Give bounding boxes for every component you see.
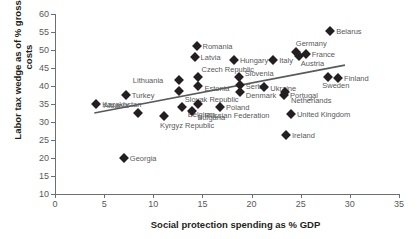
y-tick-label: 50: [27, 46, 49, 55]
data-point-label: United Kingdom: [297, 111, 350, 119]
x-tick-mark: [301, 194, 302, 198]
x-tick-label: 30: [339, 200, 361, 209]
x-tick-label: 0: [44, 200, 66, 209]
y-tick-label: 45: [27, 64, 49, 73]
data-point-label: Austria: [301, 60, 324, 68]
x-tick-label: 15: [191, 200, 213, 209]
x-tick-mark: [399, 194, 400, 198]
data-point-label: Russian Federation: [204, 112, 269, 120]
x-tick-label: 25: [290, 200, 312, 209]
data-point-label: Turkey: [132, 92, 155, 100]
x-tick-label: 20: [241, 200, 263, 209]
x-tick-mark: [350, 194, 351, 198]
x-axis-line: [55, 194, 399, 195]
x-tick-mark: [55, 194, 56, 198]
y-tick-mark: [51, 104, 55, 105]
data-point-label: Albania: [104, 102, 129, 110]
y-tick-label: 60: [27, 10, 49, 19]
y-tick-label: 15: [27, 172, 49, 181]
y-tick-label: 35: [27, 100, 49, 109]
y-tick-mark: [51, 50, 55, 51]
data-point-label: Ireland: [292, 132, 315, 140]
y-tick-label: 25: [27, 136, 49, 145]
y-tick-mark: [51, 86, 55, 87]
data-point-label: Sweden: [322, 82, 349, 90]
data-point-label: Slovenia: [245, 70, 274, 78]
data-point-label: Estonia: [204, 85, 229, 93]
data-point-label: Kyrgyz Republic: [160, 122, 214, 130]
y-tick-label: 40: [27, 82, 49, 91]
data-point-label: Germany: [296, 40, 327, 48]
data-point-label: France: [312, 51, 335, 59]
y-tick-label: 55: [27, 28, 49, 37]
y-tick-mark: [51, 68, 55, 69]
data-point-label: Denmark: [246, 92, 276, 100]
data-point-label: Hungary: [240, 57, 268, 65]
x-tick-mark: [252, 194, 253, 198]
x-axis-title: Social protection spending as % GDP: [54, 219, 417, 230]
y-tick-mark: [51, 176, 55, 177]
x-tick-label: 10: [142, 200, 164, 209]
y-tick-label: 30: [27, 118, 49, 127]
scatter-chart: Labor tax wedge as of % gross labor cost…: [0, 0, 417, 239]
data-point-label: Italy: [279, 57, 293, 65]
y-tick-mark: [51, 158, 55, 159]
y-tick-mark: [51, 122, 55, 123]
x-tick-mark: [202, 194, 203, 198]
y-tick-mark: [51, 14, 55, 15]
data-point-label: Romania: [203, 43, 233, 51]
y-tick-mark: [51, 140, 55, 141]
data-point-label: Poland: [226, 104, 249, 112]
x-tick-label: 5: [93, 200, 115, 209]
data-point-label: Lithuania: [133, 77, 163, 85]
plot-area: 1015202530354045505560 05101520253035 Ka…: [55, 14, 399, 194]
x-tick-mark: [104, 194, 105, 198]
data-point-label: Netherlands: [291, 97, 331, 105]
data-point-label: Finland: [344, 75, 369, 83]
data-point-label: Georgia: [130, 155, 157, 163]
x-tick-label: 35: [388, 200, 410, 209]
y-tick-label: 10: [27, 190, 49, 199]
x-tick-mark: [153, 194, 154, 198]
y-tick-mark: [51, 32, 55, 33]
data-point-label: Latvia: [201, 54, 221, 62]
data-point-label: Belarus: [336, 28, 361, 36]
y-tick-label: 20: [27, 154, 49, 163]
